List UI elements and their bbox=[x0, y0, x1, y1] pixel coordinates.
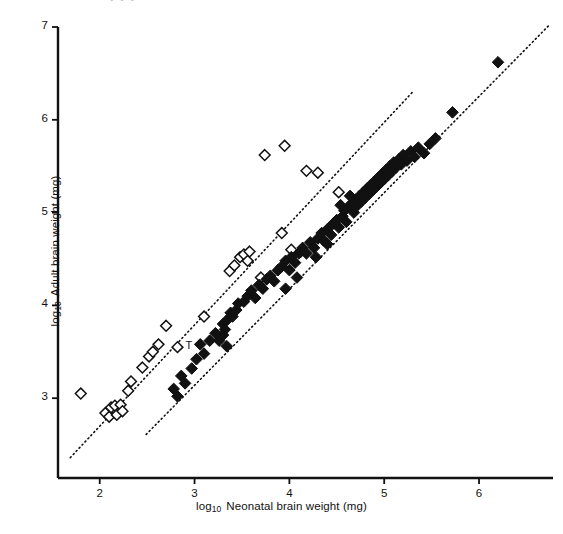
data-point-filled-diamond bbox=[291, 272, 303, 284]
data-point-open-diamond bbox=[312, 167, 323, 178]
point-label-T: T bbox=[185, 339, 192, 351]
plot-canvas bbox=[0, 0, 563, 534]
y-axis-title-prefix: log bbox=[49, 311, 61, 327]
lower-regression-line bbox=[146, 25, 549, 434]
y-axis-title: log10Adult brain weight (mg) bbox=[49, 101, 61, 401]
x-tick-label: 2 bbox=[89, 487, 111, 499]
data-point-open-diamond bbox=[333, 187, 344, 198]
data-point-filled-diamond bbox=[492, 56, 504, 68]
scatter-plot-figure: • • • 23456 34567 T log10Neonatal brain … bbox=[0, 0, 563, 534]
y-axis-title-text: Adult brain weight (mg) bbox=[49, 176, 61, 297]
x-tick-label: 5 bbox=[373, 487, 395, 499]
data-point-open-diamond bbox=[279, 140, 290, 151]
data-point-open-diamond bbox=[75, 388, 86, 399]
x-axis-title-prefix: log bbox=[196, 500, 212, 512]
data-point-open-diamond bbox=[259, 150, 270, 161]
series-open-diamonds bbox=[75, 140, 344, 422]
y-axis-title-sub: 10 bbox=[53, 301, 63, 311]
y-tick-label: 6 bbox=[26, 112, 48, 124]
x-axis-title: log10Neonatal brain weight (mg) bbox=[0, 500, 563, 512]
data-point-open-diamond bbox=[137, 362, 148, 373]
x-tick-label: 4 bbox=[278, 487, 300, 499]
x-axis-title-sub: 10 bbox=[212, 504, 222, 514]
y-tick-label: 7 bbox=[26, 19, 48, 31]
data-point-filled-diamond bbox=[447, 107, 459, 119]
y-tick-label: 5 bbox=[26, 205, 48, 217]
x-tick-label: 3 bbox=[184, 487, 206, 499]
data-point-open-diamond bbox=[276, 228, 287, 239]
x-axis-title-text: Neonatal brain weight (mg) bbox=[226, 500, 367, 512]
data-point-open-diamond bbox=[172, 342, 183, 353]
series-filled-diamonds bbox=[168, 56, 504, 402]
data-point-open-diamond bbox=[301, 165, 312, 176]
x-tick-label: 6 bbox=[468, 487, 490, 499]
data-point-open-diamond bbox=[161, 320, 172, 331]
y-tick-label: 3 bbox=[26, 390, 48, 402]
data-point-filled-diamond bbox=[280, 283, 292, 295]
y-tick-label: 4 bbox=[26, 297, 48, 309]
data-point-open-diamond bbox=[199, 311, 210, 322]
